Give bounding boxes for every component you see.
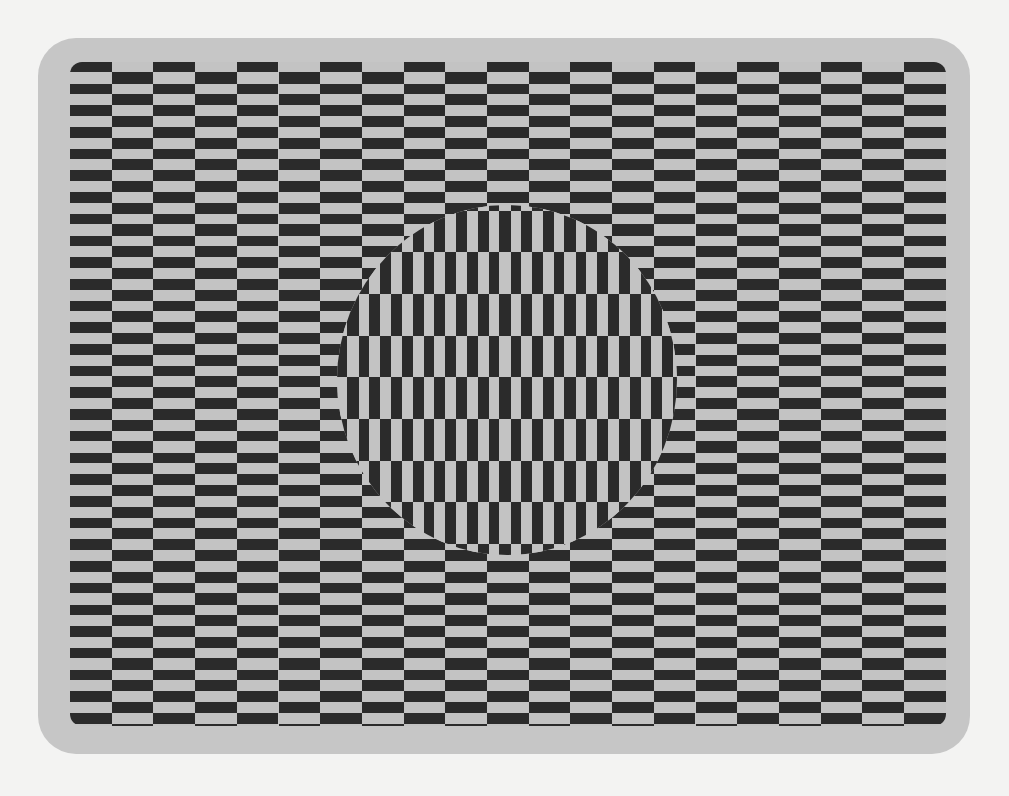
disc-band (337, 211, 677, 253)
pattern-column (904, 62, 946, 726)
disc-band (337, 419, 677, 461)
disc-band (337, 502, 677, 544)
pattern-column (779, 62, 821, 726)
disc-band (337, 377, 677, 419)
pattern-column (153, 62, 195, 726)
pattern-column (112, 62, 154, 726)
disc-band (337, 461, 677, 503)
pattern-column (195, 62, 237, 726)
disc-band (337, 336, 677, 378)
pattern-column (237, 62, 279, 726)
disc-band (337, 294, 677, 336)
pattern-column (279, 62, 321, 726)
inner-rotated-disc (337, 205, 677, 555)
pattern-column (70, 62, 112, 726)
disc-band (337, 252, 677, 294)
pattern-column (821, 62, 863, 726)
pattern-column (862, 62, 904, 726)
pattern-column (737, 62, 779, 726)
disc-band (337, 544, 677, 555)
pattern-column (696, 62, 738, 726)
